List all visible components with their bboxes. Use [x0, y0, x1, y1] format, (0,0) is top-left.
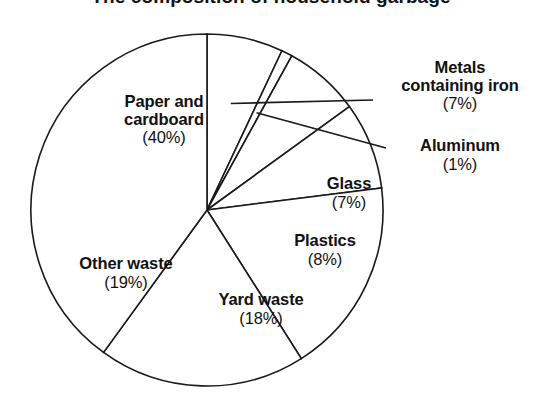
slice-label-aluminum: Aluminum (1%) — [388, 136, 532, 174]
slice-value-metals: (7%) — [378, 94, 542, 113]
slice-label-metals-line2: containing iron — [378, 76, 542, 94]
slice-label-other-waste: Other waste (19%) — [52, 254, 200, 292]
pie-chart-figure: The composition of household garbage Pap… — [0, 0, 542, 415]
slice-value-paper: (40%) — [78, 128, 250, 147]
slice-label-paper-and-cardboard: Paper and cardboard (40%) — [78, 92, 250, 147]
slice-label-aluminum-name: Aluminum — [388, 136, 532, 155]
slice-label-glass-name: Glass — [303, 174, 395, 193]
slice-label-yard-waste: Yard waste (18%) — [188, 290, 334, 328]
slice-value-yard: (18%) — [188, 309, 334, 328]
slice-label-paper-line1: Paper and — [78, 92, 250, 110]
slice-value-other: (19%) — [52, 273, 200, 292]
slice-label-other-name: Other waste — [52, 254, 200, 273]
slice-label-paper-line2: cardboard — [78, 110, 250, 128]
slice-value-glass: (7%) — [303, 193, 395, 212]
slice-label-yard-name: Yard waste — [188, 290, 334, 309]
slice-label-plastics-name: Plastics — [272, 231, 378, 250]
slice-label-metals-line1: Metals — [378, 58, 542, 76]
slice-value-plastics: (8%) — [272, 250, 378, 269]
slice-label-plastics: Plastics (8%) — [272, 231, 378, 269]
slice-label-glass: Glass (7%) — [303, 174, 395, 212]
slice-label-metals-containing-iron: Metals containing iron (7%) — [378, 58, 542, 113]
slice-value-aluminum: (1%) — [388, 155, 532, 174]
